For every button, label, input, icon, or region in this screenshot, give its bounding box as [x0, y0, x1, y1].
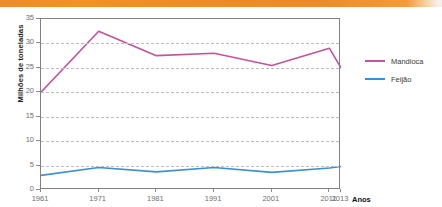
- x-axis-tick-label: 1991: [193, 195, 233, 203]
- x-axis-tick-label: 1981: [135, 195, 175, 203]
- y-axis-tick-label: 0: [16, 185, 34, 193]
- legend-color-swatch: [365, 78, 385, 80]
- plot-area: [40, 18, 340, 189]
- y-axis-tick-label: 25: [16, 63, 34, 71]
- legend-color-swatch: [365, 60, 385, 62]
- series-line-feijão: [41, 167, 341, 176]
- x-axis-tick-label: 1971: [78, 195, 118, 203]
- y-axis-tick-label: 20: [16, 87, 34, 95]
- x-axis-tick-mark: [40, 189, 41, 192]
- y-axis-tick-label: 15: [16, 112, 34, 120]
- legend-item-label: Mandioca: [391, 57, 424, 66]
- legend-item[interactable]: Mandioca: [365, 54, 424, 68]
- chart-legend: MandiocaFeijão: [365, 54, 424, 90]
- x-axis-tick-label: 1961: [20, 195, 60, 203]
- gridline: [41, 92, 339, 93]
- x-axis-tick-mark: [328, 189, 329, 192]
- line-chart: Milhões de toneladas 35302520151050 1961…: [0, 7, 442, 207]
- x-axis-title: Anos: [352, 195, 371, 204]
- gridline: [41, 141, 339, 142]
- y-axis-tick-label: 30: [16, 38, 34, 46]
- gridline: [41, 117, 339, 118]
- x-axis-tick-mark: [271, 189, 272, 192]
- series-line-mandioca: [41, 31, 341, 92]
- x-axis-tick-mark: [213, 189, 214, 192]
- y-axis-tick-label: 5: [16, 161, 34, 169]
- legend-item-label: Feijão: [391, 75, 411, 84]
- x-axis-tick-mark: [98, 189, 99, 192]
- series-lines: [41, 19, 341, 190]
- orange-header-band: [0, 0, 442, 7]
- y-axis-tick-label: 10: [16, 136, 34, 144]
- y-axis-tick-label: 35: [16, 14, 34, 22]
- gridline: [41, 43, 339, 44]
- x-axis-tick-mark: [340, 189, 341, 192]
- x-axis-tick-mark: [155, 189, 156, 192]
- x-axis-tick-label: 2001: [251, 195, 291, 203]
- gridline: [41, 68, 339, 69]
- gridline: [41, 166, 339, 167]
- legend-item[interactable]: Feijão: [365, 72, 424, 86]
